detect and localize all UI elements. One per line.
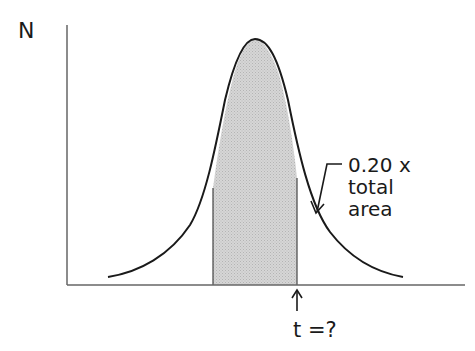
t-marker-label: t =?	[293, 318, 337, 342]
normal-distribution-diagram: N 0.20 x total area t =?	[0, 0, 475, 351]
shaded-area	[213, 39, 297, 285]
annotation-line-3: area	[348, 197, 393, 221]
annotation-line-1: 0.20 x	[348, 153, 411, 177]
y-axis-label: N	[18, 18, 34, 43]
annotation-arrow-icon	[317, 164, 342, 212]
annotation-line-2: total	[348, 175, 394, 199]
